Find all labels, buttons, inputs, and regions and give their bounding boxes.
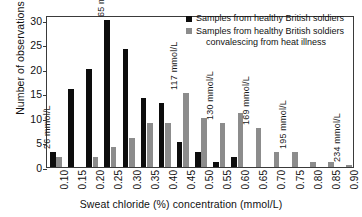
bar-group — [101, 17, 119, 167]
bar — [159, 103, 165, 167]
bar-group — [119, 17, 137, 167]
bar-group — [156, 17, 174, 167]
x-tick-label: 0.40 — [168, 170, 179, 189]
bar — [86, 69, 92, 167]
bar — [93, 157, 99, 167]
bar — [231, 157, 237, 167]
x-tick-label: 0.65 — [258, 170, 269, 189]
bar — [328, 162, 334, 167]
y-axis-tick — [43, 144, 47, 145]
y-axis-tick — [43, 120, 47, 121]
bar — [111, 147, 117, 167]
y-tick-label: 10 — [30, 113, 42, 125]
x-tick-label: 0.35 — [150, 170, 161, 189]
x-tick-label: 0.50 — [204, 170, 215, 189]
x-tick-label: 0.55 — [222, 170, 233, 189]
bar-annotation: 130 mmol/L — [205, 71, 215, 120]
legend-label-convalescing-line1: Samples from healthy British soldiers — [196, 26, 344, 38]
x-axis-title: Sweat chloride (%) concentration (mmol/L… — [0, 198, 362, 210]
bar — [292, 152, 298, 167]
x-tick-label: 0.80 — [313, 170, 324, 189]
bar-annotation: 195 mmol/L — [278, 100, 288, 149]
bar — [183, 93, 189, 167]
x-tick-label: 0.45 — [186, 170, 197, 189]
bar — [56, 157, 62, 167]
bar — [129, 138, 135, 167]
legend-label-convalescing-line2: convalescing from heat illness — [206, 37, 344, 49]
bar — [213, 162, 219, 167]
bar-group — [138, 17, 156, 167]
bar — [123, 49, 129, 167]
y-tick-label: 25 — [30, 39, 42, 51]
bar — [141, 98, 147, 167]
bar-annotation: 234 mmol/L — [332, 113, 342, 162]
legend-label-convalescing-wrap: Samples from healthy British soldiers co… — [196, 26, 344, 49]
bar — [220, 123, 226, 167]
bar — [68, 89, 74, 167]
bar — [195, 152, 201, 167]
x-tick-label: 0.75 — [295, 170, 306, 189]
chart-figure: Number of observations 051015202530 26 m… — [0, 0, 362, 217]
x-tick-label: 0.30 — [132, 170, 143, 189]
bar — [310, 162, 316, 167]
x-tick-label: 0.90 — [349, 170, 360, 189]
x-tick-label: 0.85 — [331, 170, 342, 189]
legend-swatch-convalescing-icon — [186, 28, 192, 34]
bar — [104, 20, 110, 167]
bar — [274, 152, 280, 167]
y-tick-label: 30 — [30, 15, 42, 27]
legend-item: Samples from healthy British soldiers co… — [186, 26, 344, 49]
bar-group — [65, 17, 83, 167]
x-tick-label: 0.10 — [59, 170, 70, 189]
y-axis-tick — [43, 46, 47, 47]
x-tick-label: 0.25 — [113, 170, 124, 189]
y-axis-tick — [43, 22, 47, 23]
x-tick-label: 0.60 — [240, 170, 251, 189]
bar-annotation: 65 mmol/L — [96, 0, 106, 17]
y-tick-label: 0 — [36, 162, 42, 174]
x-tick-label: 0.70 — [276, 170, 287, 189]
legend-label-healthy: Samples from healthy British soldiers — [196, 13, 344, 25]
bar — [177, 142, 183, 167]
bar-annotation: 117 mmol/L — [169, 42, 179, 90]
y-tick-label: 20 — [30, 64, 42, 76]
x-tick-label: 0.15 — [77, 170, 88, 189]
x-tick-label: 0.20 — [95, 170, 106, 189]
y-axis-tick-labels: 051015202530 — [20, 0, 42, 217]
legend-swatch-healthy-icon — [186, 16, 192, 22]
bar — [346, 165, 352, 167]
bar — [256, 128, 262, 167]
bar — [147, 123, 153, 167]
bar — [201, 118, 207, 167]
y-axis-tick — [43, 71, 47, 72]
bar — [165, 123, 171, 167]
bar-group — [83, 17, 101, 167]
legend: Samples from healthy British soldiers Sa… — [186, 13, 344, 50]
bar-annotation: 26 mmol/L — [42, 105, 52, 149]
bar — [50, 152, 56, 167]
legend-item: Samples from healthy British soldiers — [186, 13, 344, 25]
y-tick-label: 15 — [30, 88, 42, 100]
bar-annotation: 169 mmol/L — [241, 76, 251, 125]
y-axis-tick — [43, 95, 47, 96]
